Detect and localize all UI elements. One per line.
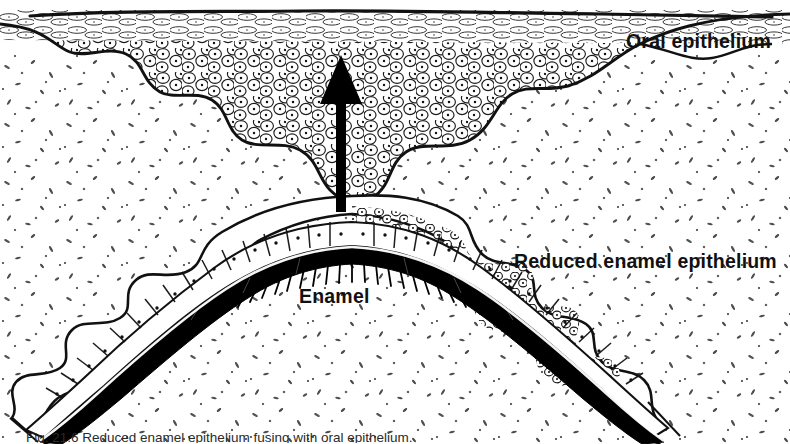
figure-artwork [0, 0, 790, 444]
figure-caption: Fig. 21.6 Reduced enamel epithelium fusi… [26, 430, 412, 443]
label-oral-epithelium: Oral epithelium [626, 30, 771, 53]
label-enamel: Enamel [299, 285, 370, 308]
histology-figure: Oral epithelium Reduced enamel epitheliu… [0, 0, 790, 444]
label-reduced-enamel-epithelium: Reduced enamel epithelium [514, 250, 777, 273]
